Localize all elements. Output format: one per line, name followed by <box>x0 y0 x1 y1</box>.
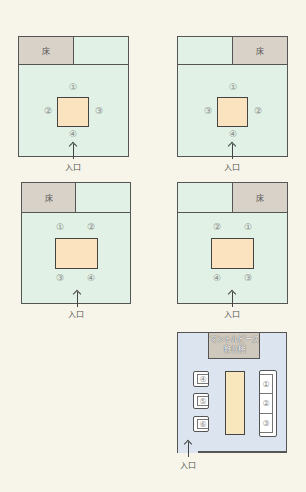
armchair-5: ⑤ <box>193 393 209 409</box>
toko-alcove: 床 <box>233 183 288 212</box>
toko-alcove: 床 <box>233 37 288 64</box>
armchair-seat: ④ <box>197 374 208 384</box>
sofa: ① ② ③ <box>259 370 277 437</box>
entrance-arrow-icon <box>232 292 233 307</box>
seat-top: ① <box>227 81 239 93</box>
mantel-label-line1: マントルピース <box>209 335 259 345</box>
seat-bottom-right: ④ <box>85 272 97 284</box>
entrance-arrow-icon <box>73 144 74 159</box>
seat-bottom: ④ <box>67 128 79 140</box>
rectangular-table <box>211 238 254 269</box>
header-empty-cell <box>178 183 233 212</box>
entrance-arrow-icon <box>232 144 233 159</box>
armchair-4: ④ <box>193 371 209 387</box>
room-diagram-1: 床 ① ② ③ ④ <box>18 36 129 157</box>
toko-label: 床 <box>42 45 50 56</box>
toko-label: 床 <box>45 192 53 203</box>
seat-left: ③ <box>202 105 214 117</box>
header-empty-cell <box>178 37 233 64</box>
toko-label: 床 <box>256 45 264 56</box>
room-header: 床 <box>178 37 287 65</box>
mantel-label-line2: 飾り棚 <box>209 345 259 355</box>
room-diagram-4: 床 ② ① ④ ③ <box>177 182 288 304</box>
room-header: 床 <box>22 183 130 213</box>
rectangular-table <box>55 238 98 269</box>
seat-top-left: ② <box>211 221 223 233</box>
entrance-label: 入口 <box>180 459 196 470</box>
sofa-seat-2: ② <box>260 393 273 414</box>
coffee-table <box>225 371 245 435</box>
entrance-label: 入口 <box>224 308 240 319</box>
seat-right: ③ <box>93 105 105 117</box>
armchair-seat: ⑤ <box>197 396 208 406</box>
room-diagram-3: 床 ① ② ③ ④ <box>21 182 131 304</box>
entrance-label: 入口 <box>65 161 81 172</box>
square-table <box>217 97 248 127</box>
seat-bottom: ④ <box>227 128 239 140</box>
seat-left: ② <box>42 105 54 117</box>
armchair-6: ⑥ <box>193 416 209 432</box>
room-header: 床 <box>178 183 287 213</box>
toko-label: 床 <box>256 192 264 203</box>
entrance-label: 入口 <box>68 308 84 319</box>
header-empty-cell <box>74 37 129 64</box>
square-table <box>57 97 89 127</box>
entrance-arrow-icon <box>188 442 189 457</box>
seat-bottom-left: ④ <box>211 272 223 284</box>
seat-bottom-left: ③ <box>54 272 66 284</box>
mantelpiece-shelf: マントルピース 飾り棚 <box>208 332 260 359</box>
seat-bottom-right: ③ <box>242 272 254 284</box>
toko-alcove: 床 <box>22 183 76 212</box>
seat-right: ② <box>252 105 264 117</box>
seat-top-right: ② <box>85 221 97 233</box>
room-header: 床 <box>19 37 128 65</box>
header-empty-cell <box>76 183 130 212</box>
entrance-arrow-icon <box>77 292 78 307</box>
entrance-label: 入口 <box>224 161 240 172</box>
armchair-seat: ⑥ <box>197 419 208 429</box>
seat-top: ① <box>67 81 79 93</box>
seat-top-right: ① <box>242 221 254 233</box>
sofa-seat-3: ③ <box>260 413 273 433</box>
seat-top-left: ① <box>54 221 66 233</box>
room-bottom-wall <box>198 451 287 453</box>
sofa-seat-1: ① <box>260 374 273 394</box>
room-diagram-2: 床 ① ③ ② ④ <box>177 36 288 157</box>
toko-alcove: 床 <box>19 37 74 64</box>
